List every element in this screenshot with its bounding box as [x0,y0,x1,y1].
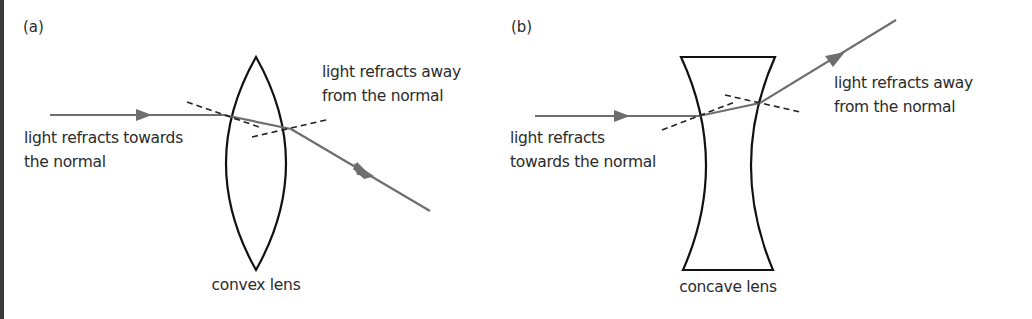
panel-a-out-label-line1: light refracts away [322,60,461,84]
panel-a-tag: (a) [23,18,44,36]
convex-lens-shape [226,57,286,270]
normal-exit-b [725,95,800,112]
panel-b-tag: (b) [511,18,532,36]
panel-b-out-label-line2: from the normal [834,95,973,119]
convex-lens-label: convex lens [212,273,301,297]
incident-arrow-a-icon [136,109,152,121]
panel-b-in-label: light refracts towards the normal [510,126,656,174]
panel-a-in-label-line2: the normal [24,150,183,174]
concave-lens-label: concave lens [679,275,777,299]
panel-a-out-label-line2: from the normal [322,84,461,108]
incident-arrow-b-icon [614,110,630,122]
panel-a-out-label: light refracts away from the normal [322,60,461,108]
panel-a-in-label: light refracts towards the normal [24,126,183,174]
normal-exit-a [252,119,330,137]
panel-b-out-label-line1: light refracts away [834,71,973,95]
concave-lens-shape [681,57,775,270]
emergent-arrow-b-icon [825,52,845,67]
panel-a-in-label-line1: light refracts towards [24,126,183,150]
panel-b-in-label-line2: towards the normal [510,150,656,174]
panel-b-in-label-line1: light refracts [510,126,656,150]
panel-b-out-label: light refracts away from the normal [834,71,973,119]
